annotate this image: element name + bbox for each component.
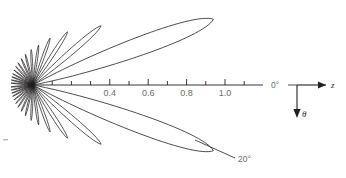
- axis-tick-label: 0.4: [104, 88, 117, 98]
- axis-tick-label: 0.6: [142, 88, 155, 98]
- theta-axis-label: θ: [302, 109, 307, 119]
- axis-tick-label-group: 0.40.60.81.0: [104, 88, 232, 98]
- figure-canvas: 0.40.60.81.0 0° z θ 20°: [0, 0, 346, 178]
- zero-degree-label: 0°: [271, 80, 279, 90]
- main-lobe-upper: [33, 18, 213, 85]
- twenty-degree-label: 20°: [238, 154, 251, 164]
- radial-axis-group: 0.40.60.81.0: [33, 79, 263, 98]
- z-axis-label: z: [330, 80, 335, 90]
- coordinate-axes-group: z θ: [293, 80, 335, 119]
- z-axis-arrowhead: [318, 81, 326, 88]
- zero-degree-annotation: 0°: [271, 80, 297, 90]
- axis-tick-group: [52, 79, 244, 85]
- twenty-degree-leader-line: [195, 140, 235, 158]
- axis-tick-label: 0.8: [180, 88, 193, 98]
- axis-tick-label: 1.0: [219, 88, 232, 98]
- theta-axis-arrowhead: [293, 109, 300, 118]
- left-edge-mark: [3, 139, 8, 140]
- radiation-pattern-svg: 0.40.60.81.0 0° z θ 20°: [0, 0, 346, 178]
